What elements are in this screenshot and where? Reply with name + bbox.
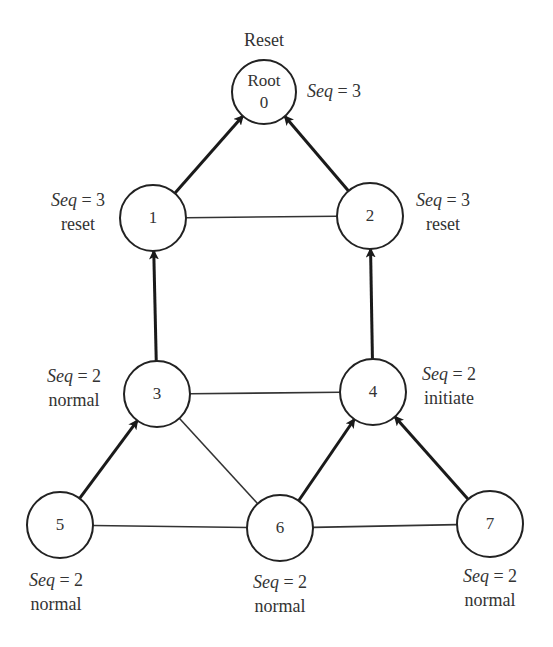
edge-3-6 xyxy=(179,418,257,503)
edge-1-2 xyxy=(186,216,337,217)
node-label-value: 0 xyxy=(260,93,269,112)
node-label: 3 xyxy=(153,384,162,403)
state-label: normal xyxy=(255,596,306,616)
annotation-node-5: Seq = 2normal xyxy=(29,570,83,614)
directed-edges xyxy=(80,116,468,501)
arrow-1-to-root xyxy=(175,116,243,193)
annotation-node-7: Seq = 2normal xyxy=(463,566,517,610)
node-label: 2 xyxy=(366,206,375,225)
nodes: Root01234567 xyxy=(27,60,523,561)
edge-5-6 xyxy=(93,525,247,527)
seq-label: Seq = 3 xyxy=(416,190,470,210)
state-label: normal xyxy=(49,390,100,410)
annotation-node-6: Seq = 2normal xyxy=(253,572,307,616)
node-5: 5 xyxy=(27,492,93,558)
state-label: initiate xyxy=(424,388,474,408)
spanning-tree-diagram: Reset Root01234567 Seq = 3Seq = 3resetSe… xyxy=(0,0,553,647)
node-label: 5 xyxy=(56,515,65,534)
state-label: reset xyxy=(426,214,460,234)
seq-label: Seq = 3 xyxy=(307,81,361,101)
node-3: 3 xyxy=(124,361,190,427)
node-6: 6 xyxy=(247,495,313,561)
arrow-2-to-root xyxy=(285,116,349,191)
annotation-node-1: Seq = 3reset xyxy=(51,190,105,234)
node-1: 1 xyxy=(120,185,186,251)
edge-6-7 xyxy=(313,525,457,528)
state-label: reset xyxy=(61,214,95,234)
annotation-node-2: Seq = 3reset xyxy=(416,190,470,234)
node-label: 6 xyxy=(276,518,285,537)
annotation-node-root: Seq = 3 xyxy=(307,81,361,101)
seq-label: Seq = 2 xyxy=(422,364,476,384)
node-4: 4 xyxy=(340,359,406,425)
root-top-label: Reset xyxy=(244,30,284,50)
seq-label: Seq = 2 xyxy=(29,570,83,590)
node-root: Root0 xyxy=(232,60,296,124)
node-label: 1 xyxy=(149,208,158,227)
arrow-5-to-3 xyxy=(80,421,138,499)
edge-3-4 xyxy=(190,392,340,393)
node-label: 7 xyxy=(486,514,495,533)
state-label: normal xyxy=(31,594,82,614)
annotation-node-4: Seq = 2initiate xyxy=(422,364,476,408)
seq-label: Seq = 2 xyxy=(463,566,517,586)
seq-label: Seq = 2 xyxy=(47,366,101,386)
node-label: 4 xyxy=(369,382,378,401)
seq-label: Seq = 2 xyxy=(253,572,307,592)
state-label: normal xyxy=(465,590,516,610)
arrow-4-to-2 xyxy=(371,249,373,359)
arrow-7-to-4 xyxy=(395,417,468,500)
arrow-3-to-1 xyxy=(154,251,157,361)
seq-label: Seq = 3 xyxy=(51,190,105,210)
arrow-6-to-4 xyxy=(299,419,355,501)
node-label: Root xyxy=(247,71,280,90)
node-2: 2 xyxy=(337,183,403,249)
node-7: 7 xyxy=(457,491,523,557)
annotation-node-3: Seq = 2normal xyxy=(47,366,101,410)
